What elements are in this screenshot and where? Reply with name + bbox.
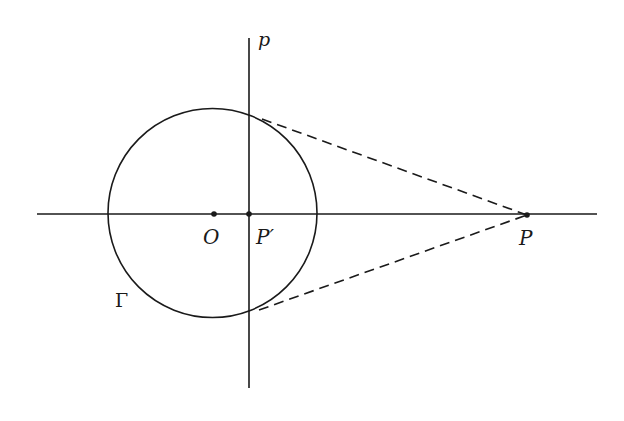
point-p-prime-dot <box>246 211 252 217</box>
label-p: p <box>258 28 270 50</box>
polar-diagram: p O P′ P Γ <box>0 0 624 421</box>
point-o-dot <box>211 211 217 217</box>
label-p-prime: P′ <box>255 225 274 249</box>
label-gamma: Γ <box>115 289 128 311</box>
point-p-dot <box>524 212 530 218</box>
tangent-line-upper <box>262 119 527 215</box>
label-p-point: P <box>518 226 533 250</box>
tangent-line-lower <box>259 215 527 310</box>
label-o: O <box>203 225 219 249</box>
